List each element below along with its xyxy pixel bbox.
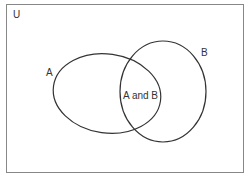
set-b-label: B: [201, 47, 208, 58]
set-a-label: A: [46, 67, 53, 78]
universe-label: U: [13, 9, 20, 20]
venn-diagram: U A B A and B: [0, 0, 249, 182]
universe-frame: [7, 5, 244, 173]
intersection-label: A and B: [123, 90, 158, 101]
